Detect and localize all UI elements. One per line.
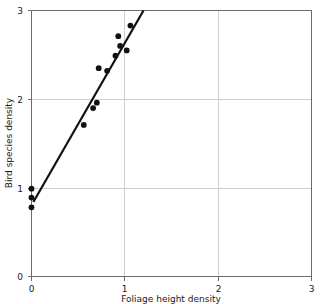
x-axis-title: Foliage height density <box>121 294 221 304</box>
data-point <box>29 195 35 201</box>
y-tick-label-3: 3 <box>17 6 23 16</box>
data-point <box>29 204 35 210</box>
y-tick-label-1: 1 <box>17 184 23 194</box>
data-point <box>115 33 121 39</box>
y-tick-labels: 0 1 2 3 <box>17 6 23 282</box>
x-tick-labels: 0 1 2 3 <box>29 284 315 294</box>
x-tick-label-1: 1 <box>122 284 128 294</box>
data-point <box>81 122 87 128</box>
axes-frame <box>32 11 312 277</box>
plot-area: 0 1 2 3 0 1 2 3 Foliage height density B… <box>0 0 320 304</box>
data-point <box>117 43 123 49</box>
data-point <box>29 186 35 192</box>
data-point <box>96 65 102 71</box>
y-tick-label-2: 2 <box>17 95 23 105</box>
y-axis-title: Bird species density <box>4 97 14 188</box>
data-point <box>128 23 134 29</box>
x-tick-label-0: 0 <box>29 284 35 294</box>
x-tick-marks <box>32 277 312 281</box>
data-point <box>104 68 110 74</box>
scatter-chart: 0 1 2 3 0 1 2 3 Foliage height density B… <box>0 0 320 304</box>
fit-line-group <box>33 11 143 203</box>
x-tick-label-3: 3 <box>309 284 315 294</box>
y-tick-marks <box>28 11 32 277</box>
x-tick-label-2: 2 <box>216 284 222 294</box>
y-tick-label-0: 0 <box>17 272 23 282</box>
regression-line <box>33 11 143 203</box>
data-point <box>124 48 130 54</box>
gridlines <box>32 11 312 277</box>
data-point <box>113 53 119 59</box>
data-point <box>90 105 96 111</box>
data-point <box>94 100 100 106</box>
